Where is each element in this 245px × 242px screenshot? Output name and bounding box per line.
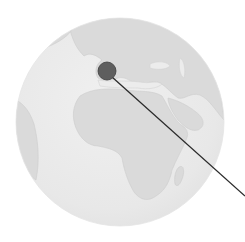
- globe-map: [0, 0, 245, 242]
- location-marker[interactable]: [98, 62, 116, 80]
